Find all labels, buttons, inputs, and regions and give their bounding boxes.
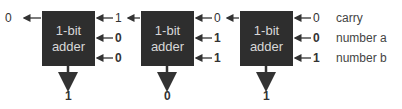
sum-out-2: 0	[164, 89, 171, 103]
legend-carry: carry	[336, 11, 363, 25]
carry-in-1: 1	[115, 11, 122, 25]
adder-label: 1-bit	[42, 23, 95, 39]
adder-box-3: 1-bit adder	[240, 11, 293, 66]
sum-out-1: 1	[65, 89, 72, 103]
legend-number-a: number a	[336, 31, 387, 45]
a-in-2: 1	[214, 31, 221, 45]
b-in-1: 0	[115, 51, 122, 65]
adder-label: adder	[240, 39, 293, 55]
carry-in-3: 0	[313, 11, 320, 25]
adder-box-2: 1-bit adder	[141, 11, 194, 66]
a-in-1: 0	[115, 31, 122, 45]
sum-out-3: 1	[263, 89, 270, 103]
adder-box-1: 1-bit adder	[42, 11, 95, 66]
legend-number-b: number b	[336, 51, 387, 65]
a-in-3: 0	[313, 31, 320, 45]
b-in-3: 1	[313, 51, 320, 65]
carry-in-2: 0	[214, 11, 221, 25]
adder-label: 1-bit	[141, 23, 194, 39]
b-in-2: 1	[214, 51, 221, 65]
final-carry-out: 0	[5, 11, 12, 25]
adder-label: 1-bit	[240, 23, 293, 39]
adder-label: adder	[141, 39, 194, 55]
adder-label: adder	[42, 39, 95, 55]
